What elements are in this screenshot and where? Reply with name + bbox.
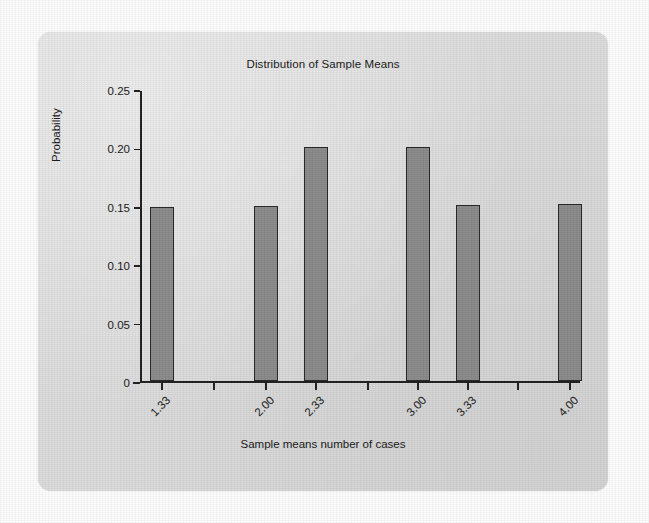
x-tick-mark <box>265 383 267 390</box>
y-tick-mark <box>134 90 140 92</box>
y-tick-label: 0.05 <box>108 319 132 331</box>
y-tick-mark <box>134 324 140 326</box>
bar <box>558 204 582 382</box>
y-axis-line <box>140 91 142 383</box>
bar <box>456 205 480 381</box>
bar <box>406 147 430 382</box>
y-tick-mark <box>134 149 140 151</box>
y-tick-label: 0.20 <box>108 143 132 155</box>
y-tick-mark <box>134 265 140 267</box>
bar <box>304 147 328 382</box>
x-tick-mark <box>417 383 419 390</box>
x-axis-line <box>140 381 580 383</box>
x-tick-mark-minor <box>367 383 369 390</box>
x-tick-label: 2.00 <box>228 394 276 442</box>
y-tick-label: 0.10 <box>108 260 132 272</box>
x-tick-mark-minor <box>517 383 519 390</box>
x-tick-label: 3.00 <box>380 394 428 442</box>
x-tick-label: 1.33 <box>124 394 172 442</box>
x-tick-mark <box>467 383 469 390</box>
y-tick-label: 0.25 <box>108 85 132 97</box>
bar <box>254 206 278 381</box>
x-axis-title: Sample means number of cases <box>38 438 608 450</box>
screenshot-root: Distribution of Sample Means Probability… <box>0 0 649 523</box>
chart-title: Distribution of Sample Means <box>38 58 608 70</box>
bar <box>150 207 174 381</box>
plot-area: 00.050.100.150.200.25 1.332.002.333.003.… <box>140 91 580 383</box>
bar-chart: Distribution of Sample Means Probability… <box>38 32 608 491</box>
y-axis-title: Probability <box>50 108 62 162</box>
x-tick-mark <box>569 383 571 390</box>
x-tick-label: 4.00 <box>532 394 580 442</box>
x-tick-label: 2.33 <box>278 394 326 442</box>
y-tick-label: 0 <box>124 377 132 389</box>
x-tick-mark-minor <box>213 383 215 390</box>
x-tick-label: 3.33 <box>430 394 478 442</box>
y-tick-label: 0.15 <box>108 202 132 214</box>
x-tick-mark <box>315 383 317 390</box>
y-tick-mark <box>134 207 140 209</box>
x-tick-mark <box>161 383 163 390</box>
y-tick-mark <box>133 382 140 384</box>
